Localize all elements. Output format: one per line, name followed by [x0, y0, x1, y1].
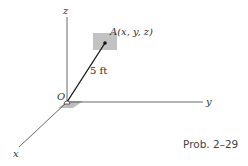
origin-label: O — [57, 92, 65, 102]
y-axis-label: y — [206, 97, 212, 107]
x-axis-line — [19, 102, 67, 147]
z-axis-label: z — [63, 6, 68, 16]
x-axis-label: x — [13, 149, 19, 159]
point-a-label: A(x, y, z) — [110, 27, 153, 37]
length-label: 5 ft — [90, 66, 107, 76]
point-a-dot — [103, 41, 107, 45]
problem-caption: Prob. 2–29 — [183, 138, 238, 150]
diagram: z y x O A(x, y, z) 5 ft Prob. 2–29 — [0, 0, 248, 166]
